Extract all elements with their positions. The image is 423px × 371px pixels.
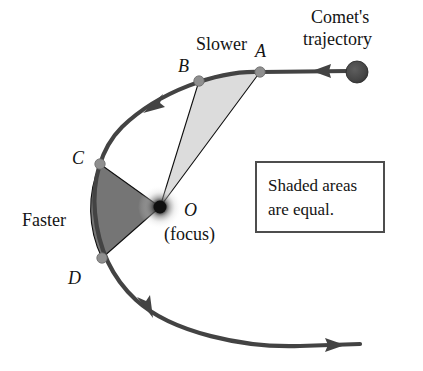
focus-core-dot (154, 201, 167, 214)
upper-left-arrow-icon (143, 94, 165, 113)
point-c-label: C (72, 148, 85, 168)
shaded-areas-callout-box (256, 162, 384, 232)
point-a-label: A (254, 41, 267, 61)
comet-body-icon (346, 61, 368, 83)
focus-word-label: (focus) (164, 224, 215, 245)
node-marker-c (95, 159, 105, 169)
node-marker-a (255, 67, 265, 77)
point-b-label: B (178, 56, 189, 76)
comet-trajectory-label-line-2: trajectory (303, 29, 372, 49)
lower-left-arrow-icon (137, 295, 153, 318)
point-d-label: D (67, 268, 81, 288)
orbit-diagram-canvas: Shaded areas are equal. Comet's trajecto… (0, 0, 423, 371)
node-marker-b (194, 76, 204, 86)
focus-symbol-label: O (184, 200, 197, 220)
outbound-arrow-icon (325, 338, 345, 352)
kepler-second-law-figure: Shaded areas are equal. Comet's trajecto… (0, 0, 423, 371)
node-marker-d (97, 253, 107, 263)
slower-label: Slower (196, 34, 247, 54)
faster-label: Faster (22, 210, 66, 230)
callout-line-2: are equal. (268, 200, 334, 219)
comet-trajectory-label-line-1: Comet's (311, 7, 369, 27)
callout-line-1: Shaded areas (268, 176, 357, 195)
inbound-arrow-icon (312, 64, 331, 78)
trajectory-inbound-segment (262, 71, 349, 72)
